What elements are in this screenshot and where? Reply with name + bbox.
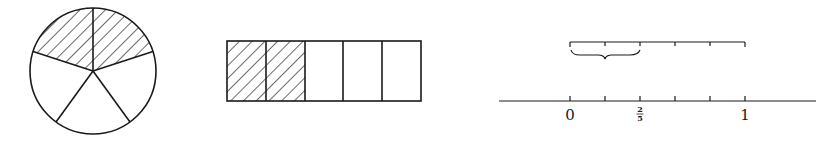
label-one: 1: [740, 106, 750, 124]
pie-spoke: [93, 71, 130, 122]
number-line-diagram: 0 2 5 1: [499, 42, 816, 124]
brace-icon: [571, 50, 640, 59]
label-zero: 0: [565, 106, 575, 124]
unit-segment: [570, 42, 745, 47]
bar-diagram: [227, 41, 421, 101]
label-two-fifths-denominator: 5: [637, 113, 643, 123]
fraction-diagram: 0 2 5 1: [0, 0, 829, 145]
pie-spoke: [56, 71, 93, 122]
pie-diagram: [30, 8, 156, 134]
